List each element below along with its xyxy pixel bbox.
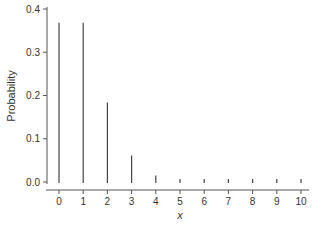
- x-tick-label: 0: [56, 196, 62, 207]
- y-axis: 0.00.10.20.30.4: [26, 4, 47, 188]
- x-tick-label: 4: [153, 196, 159, 207]
- y-tick-label: 0.4: [26, 4, 40, 15]
- y-tick-label: 0.2: [26, 90, 40, 101]
- x-tick-label: 6: [201, 196, 207, 207]
- y-tick-label: 0.0: [26, 177, 40, 188]
- x-tick-label: 10: [295, 196, 307, 207]
- x-tick-label: 8: [250, 196, 256, 207]
- x-tick-label: 2: [105, 196, 111, 207]
- x-tick-label: 9: [274, 196, 280, 207]
- x-tick-label: 7: [226, 196, 232, 207]
- x-tick-label: 3: [129, 196, 135, 207]
- y-axis-title: Probability: [5, 70, 17, 122]
- x-axis: 012345678910: [46, 190, 309, 207]
- probability-chart: 0.00.10.20.30.4 012345678910 x Probabili…: [0, 0, 315, 225]
- y-tick-label: 0.3: [26, 47, 40, 58]
- x-axis-title: x: [176, 209, 183, 221]
- x-tick-label: 1: [80, 196, 86, 207]
- x-tick-label: 5: [177, 196, 183, 207]
- stem-bars: [59, 23, 301, 183]
- y-tick-label: 0.1: [26, 133, 40, 144]
